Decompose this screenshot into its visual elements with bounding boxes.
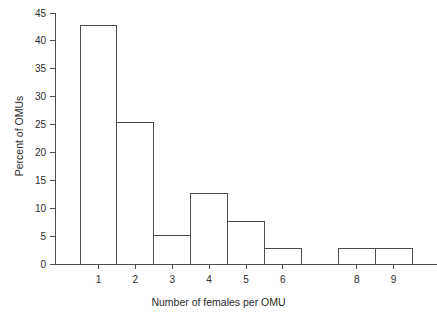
y-tick-label-40: 40 [35, 35, 47, 46]
bar-1 [80, 26, 117, 264]
y-axis [50, 13, 55, 264]
x-tick-label-8: 8 [354, 274, 360, 285]
chart-plot-area: 051015202530354045 12345689 [0, 0, 437, 317]
x-tick-label-2: 2 [133, 274, 139, 285]
x-tick-labels: 12345689 [96, 274, 397, 285]
x-tick-label-5: 5 [243, 274, 249, 285]
y-tick-labels: 051015202530354045 [35, 8, 47, 270]
y-tick-label-25: 25 [35, 119, 47, 130]
y-tick-label-20: 20 [35, 147, 47, 158]
bar-8 [338, 249, 375, 264]
y-axis-title: Percent of OMUs [13, 71, 25, 201]
bar-2 [117, 123, 154, 264]
bar-3 [154, 236, 191, 264]
y-tick-label-45: 45 [35, 8, 47, 19]
y-tick-label-35: 35 [35, 63, 47, 74]
x-tick-label-4: 4 [206, 274, 212, 285]
x-axis-title: Number of females per OMU [0, 296, 437, 308]
x-axis [55, 264, 437, 269]
y-tick-label-15: 15 [35, 175, 47, 186]
y-tick-label-30: 30 [35, 91, 47, 102]
bar-6 [264, 249, 301, 264]
bars-group [80, 26, 412, 264]
x-tick-label-3: 3 [169, 274, 175, 285]
bar-9 [375, 249, 412, 264]
y-tick-label-5: 5 [40, 231, 46, 242]
bar-5 [228, 221, 265, 264]
x-tick-label-6: 6 [280, 274, 286, 285]
x-tick-label-9: 9 [391, 274, 397, 285]
histogram-chart: 051015202530354045 12345689 Number of fe… [0, 0, 437, 317]
x-tick-label-1: 1 [96, 274, 102, 285]
y-tick-label-0: 0 [40, 259, 46, 270]
bar-4 [191, 194, 228, 264]
y-tick-label-10: 10 [35, 203, 47, 214]
